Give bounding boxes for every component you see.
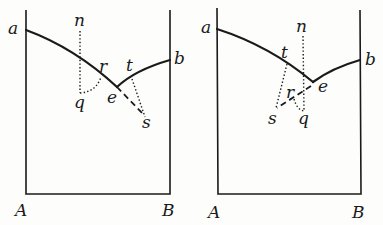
right-label-q: q [298, 108, 309, 128]
left-label-A: A [13, 200, 27, 220]
left-label-e: e [107, 87, 117, 107]
left-label-q: q [74, 92, 85, 112]
right-label-r: r [286, 82, 295, 102]
right-label-a: a [201, 17, 211, 37]
diagram-stage: a b n q r e t s A B a b n t e r s [0, 0, 383, 225]
left-frame [26, 10, 170, 194]
right-curve-a-e [217, 29, 313, 82]
left-label-b: b [174, 48, 185, 68]
right-label-B: B [351, 202, 365, 222]
right-label-e: e [318, 76, 328, 96]
left-label-s: s [142, 112, 151, 132]
left-figure: a b n q r e t s A B [8, 10, 185, 220]
phase-diagrams: a b n q r e t s A B a b n t e r s [0, 0, 383, 225]
right-label-n: n [296, 16, 307, 36]
left-dashed-e-s [117, 87, 144, 115]
left-label-t: t [126, 55, 133, 75]
left-dotted-q-r [80, 77, 101, 93]
left-label-n: n [74, 10, 85, 30]
right-label-b: b [365, 49, 376, 69]
right-label-s: s [268, 108, 277, 128]
right-label-A: A [206, 202, 220, 222]
right-label-t: t [281, 42, 288, 62]
left-label-B: B [161, 200, 175, 220]
left-curve-e-b [117, 60, 170, 87]
left-label-r: r [99, 56, 108, 76]
right-figure: a b n t e r s q A B [201, 8, 376, 222]
left-label-a: a [8, 18, 18, 38]
